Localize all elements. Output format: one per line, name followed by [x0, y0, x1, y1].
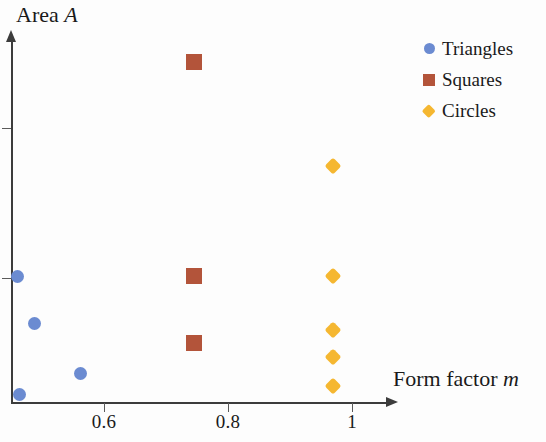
- data-point-diamond: [325, 378, 342, 395]
- page-title: Area A: [16, 2, 78, 27]
- square-marker-icon: [423, 74, 435, 86]
- data-point-circle: [13, 388, 26, 401]
- x-axis-label-text: Form factor: [393, 366, 503, 391]
- data-point-square: [186, 54, 202, 70]
- x-axis-tick-label: 1: [347, 412, 357, 431]
- x-axis-label-variable: m: [503, 366, 519, 391]
- y-axis-line: [11, 40, 13, 404]
- x-axis-label: Form factor m: [393, 366, 519, 391]
- plot-title-variable: A: [64, 2, 77, 27]
- x-axis-arrow-icon: [386, 397, 398, 407]
- legend-swatch-wrapper: [418, 43, 440, 54]
- data-point-square: [186, 268, 202, 284]
- x-axis-tick-label: 0.6: [92, 412, 116, 431]
- y-axis-tick-mark: [2, 128, 11, 129]
- legend-swatch-wrapper: [418, 74, 440, 86]
- data-point-diamond: [325, 349, 342, 366]
- legend-item-label: Circles: [440, 101, 496, 120]
- y-axis-tick-mark: [2, 278, 11, 279]
- diamond-marker-icon: [422, 104, 435, 117]
- data-point-diamond: [325, 268, 342, 285]
- legend-item-squares[interactable]: Squares: [418, 64, 513, 95]
- legend-item-circles[interactable]: Circles: [418, 95, 513, 126]
- legend-item-label: Triangles: [440, 39, 513, 58]
- data-point-circle: [74, 367, 87, 380]
- legend: TrianglesSquaresCircles: [418, 33, 513, 126]
- data-point-circle: [11, 270, 24, 283]
- circle-marker-icon: [424, 43, 435, 54]
- x-axis-line: [11, 402, 390, 404]
- scatter-plot-figure: Area A 0.60.81 Form factor m TrianglesSq…: [0, 0, 546, 442]
- data-point-square: [186, 335, 202, 351]
- legend-item-label: Squares: [440, 70, 502, 89]
- legend-item-triangles[interactable]: Triangles: [418, 33, 513, 64]
- x-axis-tick-label: 0.8: [216, 412, 240, 431]
- data-point-diamond: [325, 157, 342, 174]
- plot-title-text: Area: [16, 2, 64, 27]
- y-axis-arrow-icon: [6, 30, 16, 42]
- data-point-diamond: [325, 321, 342, 338]
- legend-swatch-wrapper: [418, 106, 440, 116]
- data-point-circle: [28, 317, 41, 330]
